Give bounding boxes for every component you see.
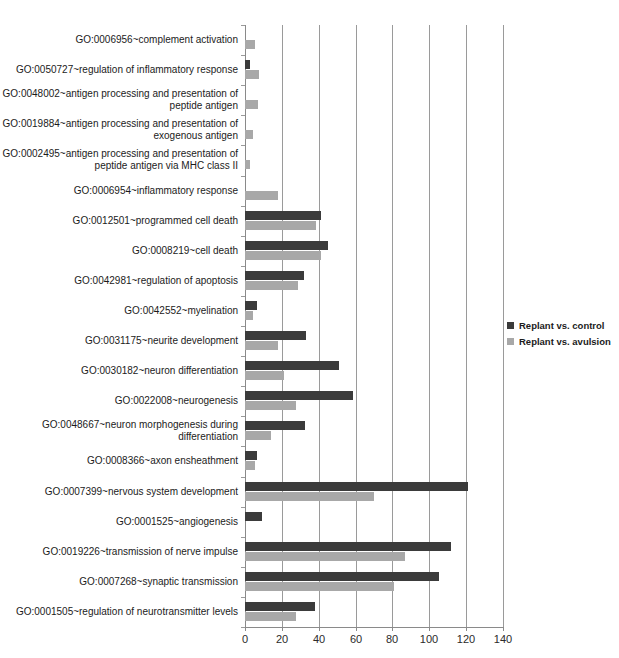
category-label: GO:0050727~regulation of inflammatory re… [2, 64, 238, 76]
legend-item[interactable]: Replant vs. control [507, 318, 615, 334]
bar-replant-vs-control [245, 391, 353, 400]
x-tickmark-40 [319, 627, 320, 631]
category-label: GO:0042981~regulation of apoptosis [2, 275, 238, 287]
category-label: GO:0030182~neuron differentiation [2, 365, 238, 377]
bar-replant-vs-control [245, 241, 328, 250]
bar-replant-vs-avulsion [245, 341, 278, 350]
category-label: GO:0031175~neurite development [2, 335, 238, 347]
x-tick-label: 60 [336, 633, 376, 645]
bar-replant-vs-control [245, 301, 257, 310]
category-label: GO:0042552~myelination [2, 305, 238, 317]
x-tick-label: 80 [372, 633, 412, 645]
bar-row: GO:0012501~programmed cell death [0, 206, 619, 236]
x-tick-label: 100 [409, 633, 449, 645]
category-label: GO:0048667~neuron morphogenesis during d… [2, 419, 238, 443]
category-label: GO:0012501~programmed cell death [2, 215, 238, 227]
legend-swatch-icon [507, 322, 514, 329]
category-label: GO:0006956~complement activation [2, 34, 238, 46]
bar-replant-vs-avulsion [245, 431, 271, 440]
bar-replant-vs-control [245, 542, 451, 551]
bar-replant-vs-control [245, 572, 439, 581]
bar-replant-vs-avulsion [245, 461, 255, 470]
bar-row: GO:0008366~axon ensheathment [0, 446, 619, 476]
bar-replant-vs-control [245, 271, 304, 280]
bar-replant-vs-control [245, 602, 315, 611]
category-label: GO:0008366~axon ensheathment [2, 455, 238, 467]
x-tickmark-120 [466, 627, 467, 631]
x-tick-label: 40 [299, 633, 339, 645]
bar-replant-vs-control [245, 421, 305, 430]
bar-row: GO:0042981~regulation of apoptosis [0, 266, 619, 296]
x-tick-label: 20 [262, 633, 302, 645]
chart-page: 020406080100120140 GO:0006956~complement… [0, 0, 619, 658]
bar-replant-vs-avulsion [245, 582, 394, 591]
category-label: GO:0007268~synaptic transmission [2, 576, 238, 588]
x-tickmark-0 [245, 627, 246, 631]
bar-replant-vs-control [245, 451, 257, 460]
legend-item[interactable]: Replant vs. avulsion [507, 334, 615, 350]
bar-replant-vs-avulsion [245, 100, 258, 109]
bar-replant-vs-avulsion [245, 40, 255, 49]
legend-swatch-icon [507, 338, 514, 345]
category-label: GO:0048002~antigen processing and presen… [2, 88, 238, 112]
category-label: GO:0001525~angiogenesis [2, 516, 238, 528]
x-tick-label: 120 [446, 633, 486, 645]
x-tickmark-60 [356, 627, 357, 631]
x-tickmark-20 [282, 627, 283, 631]
x-tick-label: 0 [225, 633, 265, 645]
bar-row: GO:0008219~cell death [0, 236, 619, 266]
category-label: GO:0002495~antigen processing and presen… [2, 148, 238, 172]
bar-row: GO:0006954~inflammatory response [0, 176, 619, 206]
category-label: GO:0022008~neurogenesis [2, 395, 238, 407]
x-tickmark-80 [392, 627, 393, 631]
bar-replant-vs-control [245, 211, 321, 220]
y-tickmark [241, 627, 245, 628]
category-label: GO:0006954~inflammatory response [2, 185, 238, 197]
bar-row: GO:0019884~antigen processing and presen… [0, 115, 619, 145]
bar-row: GO:0001525~angiogenesis [0, 507, 619, 537]
bar-replant-vs-control [245, 512, 262, 521]
bar-row: GO:0007268~synaptic transmission [0, 567, 619, 597]
bar-row: GO:0048002~antigen processing and presen… [0, 85, 619, 115]
legend-label: Replant vs. avulsion [519, 336, 611, 347]
bar-replant-vs-avulsion [245, 191, 278, 200]
category-label: GO:0007399~nervous system development [2, 486, 238, 498]
bar-row: GO:0001505~regulation of neurotransmitte… [0, 597, 619, 627]
bar-replant-vs-avulsion [245, 70, 259, 79]
category-label: GO:0008219~cell death [2, 245, 238, 257]
bar-replant-vs-avulsion [245, 401, 296, 410]
bar-replant-vs-avulsion [245, 612, 296, 621]
category-label: GO:0001505~regulation of neurotransmitte… [2, 606, 238, 618]
category-label: GO:0019226~transmission of nerve impulse [2, 546, 238, 558]
bar-replant-vs-avulsion [245, 130, 253, 139]
x-tick-label: 140 [483, 633, 523, 645]
bar-row: GO:0048667~neuron morphogenesis during d… [0, 416, 619, 446]
bar-row: GO:0006956~complement activation [0, 25, 619, 55]
bar-replant-vs-control [245, 60, 250, 69]
bar-row: GO:0022008~neurogenesis [0, 386, 619, 416]
chart-legend: Replant vs. controlReplant vs. avulsion [507, 318, 615, 350]
bar-replant-vs-control [245, 482, 468, 491]
bar-row: GO:0030182~neuron differentiation [0, 356, 619, 386]
bar-row: GO:0019226~transmission of nerve impulse [0, 537, 619, 567]
bar-replant-vs-avulsion [245, 281, 298, 290]
legend-label: Replant vs. control [519, 320, 605, 331]
bar-replant-vs-avulsion [245, 492, 374, 501]
bar-replant-vs-avulsion [245, 160, 250, 169]
category-label: GO:0019884~antigen processing and presen… [2, 118, 238, 142]
bar-row: GO:0007399~nervous system development [0, 477, 619, 507]
go-enrichment-bar-chart: 020406080100120140 GO:0006956~complement… [0, 0, 619, 658]
bar-row: GO:0050727~regulation of inflammatory re… [0, 55, 619, 85]
bar-row: GO:0002495~antigen processing and presen… [0, 145, 619, 175]
bar-replant-vs-control [245, 361, 339, 370]
bar-replant-vs-avulsion [245, 311, 253, 320]
bar-replant-vs-avulsion [245, 371, 284, 380]
x-tickmark-140 [503, 627, 504, 631]
x-tickmark-100 [429, 627, 430, 631]
bar-replant-vs-control [245, 331, 306, 340]
bar-replant-vs-avulsion [245, 221, 316, 230]
bar-replant-vs-avulsion [245, 251, 321, 260]
bar-replant-vs-avulsion [245, 552, 405, 561]
